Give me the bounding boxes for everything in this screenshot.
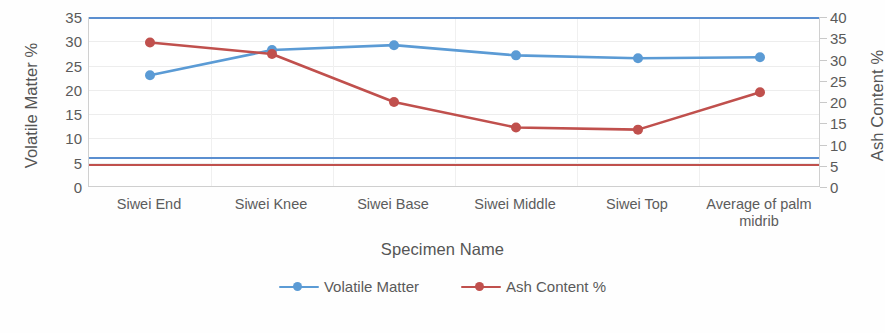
x-axis-category-label: Siwei Top	[576, 196, 698, 240]
y-axis-right-tickmark	[820, 17, 827, 18]
y-axis-left-tick-label: 30	[48, 34, 82, 49]
x-axis-category-label-line2: midrib	[739, 213, 778, 229]
y-axis-right-tick-label: 25	[830, 74, 864, 89]
series-canvas	[89, 17, 821, 187]
x-axis-category-label: Siwei Middle	[454, 196, 576, 240]
data-point-marker	[633, 125, 643, 135]
y-axis-left-title: Volatile Matter %	[22, 11, 41, 201]
x-axis-category-label: Siwei End	[88, 196, 210, 240]
y-axis-left-ticks: 35302520151050	[48, 0, 82, 200]
y-axis-right-tick-label: 30	[830, 53, 864, 68]
data-point-marker	[755, 87, 765, 97]
data-point-marker	[145, 38, 155, 48]
legend-item[interactable]: Ash Content %	[461, 278, 606, 295]
legend-label: Ash Content %	[506, 278, 606, 295]
legend-marker-icon	[461, 281, 501, 293]
y-axis-left-tick-label: 35	[48, 10, 82, 25]
y-axis-left-tick-label: 0	[48, 180, 82, 195]
plot-area	[88, 17, 820, 187]
y-axis-right-tickmark	[820, 145, 827, 146]
y-axis-right-tickmark	[820, 123, 827, 124]
x-axis-category-label: Siwei Knee	[210, 196, 332, 240]
data-point-marker	[267, 49, 277, 59]
x-axis-category-labels: Siwei EndSiwei KneeSiwei BaseSiwei Middl…	[88, 196, 820, 240]
legend-item[interactable]: Volatile Matter	[279, 278, 419, 295]
y-axis-left-tick-label: 25	[48, 59, 82, 74]
legend-dot	[293, 282, 302, 291]
y-axis-left-tick-label: 10	[48, 131, 82, 146]
y-axis-left-tick-label: 15	[48, 107, 82, 122]
legend-label: Volatile Matter	[324, 278, 419, 295]
legend-marker-icon	[279, 281, 319, 293]
data-point-marker	[633, 53, 643, 63]
y-axis-right-tick-label: 5	[830, 159, 864, 174]
line-chart: Volatile Matter % Ash Content % 35302520…	[0, 0, 885, 333]
y-axis-right-tickmark	[820, 60, 827, 61]
y-axis-left-tick-label: 20	[48, 83, 82, 98]
y-axis-right-tick-label: 20	[830, 95, 864, 110]
series-line	[150, 45, 760, 75]
y-axis-right-tickmark	[820, 166, 827, 167]
data-point-marker	[145, 70, 155, 80]
y-axis-right-tickmark	[820, 102, 827, 103]
y-axis-right-tick-label: 0	[830, 180, 864, 195]
y-axis-right-tickmark	[820, 187, 827, 188]
y-axis-right-tick-label: 35	[830, 31, 864, 46]
x-axis-title: Specimen Name	[0, 240, 885, 259]
data-point-marker	[389, 97, 399, 107]
y-axis-right-tick-label: 10	[830, 138, 864, 153]
x-axis-category-label: Average of palmmidrib	[698, 196, 820, 240]
y-axis-right-ticks: 4035302520151050	[830, 0, 864, 200]
y-axis-right-title: Ash Content %	[868, 11, 885, 201]
chart-legend: Volatile MatterAsh Content %	[0, 278, 885, 295]
legend-dot	[475, 282, 484, 291]
data-point-marker	[511, 123, 521, 133]
y-axis-right-tick-label: 40	[830, 10, 864, 25]
data-point-marker	[389, 40, 399, 50]
y-axis-right-tickmark	[820, 81, 827, 82]
y-axis-right-tick-label: 15	[830, 116, 864, 131]
y-axis-left-tick-label: 5	[48, 156, 82, 171]
data-point-marker	[511, 50, 521, 60]
y-axis-right-tickmark	[820, 38, 827, 39]
data-point-marker	[755, 52, 765, 62]
x-axis-category-label: Siwei Base	[332, 196, 454, 240]
